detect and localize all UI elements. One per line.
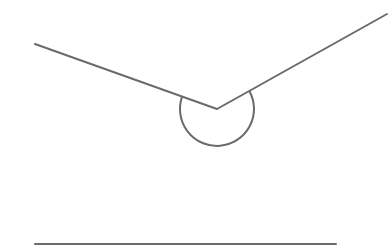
right-ray [217, 14, 387, 109]
reflex-angle-diagram [0, 0, 390, 249]
left-ray [35, 44, 217, 109]
